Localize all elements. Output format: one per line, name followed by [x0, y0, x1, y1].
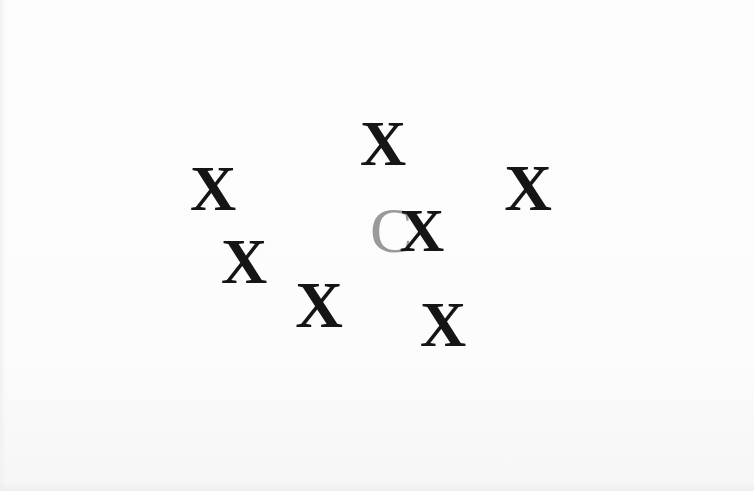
stimulus-canvas: C X X X X X X X — [0, 0, 754, 491]
distractor-letter-x: X — [185, 157, 241, 221]
bottom-edge-shading — [0, 483, 754, 491]
distractor-letter-x: X — [355, 112, 411, 176]
left-edge-shading — [0, 0, 6, 491]
distractor-letter-x: X — [415, 293, 471, 357]
distractor-letter-x: X — [396, 199, 448, 261]
distractor-letter-x: X — [499, 155, 557, 221]
distractor-letter-x: X — [289, 272, 349, 338]
distractor-letter-x: X — [216, 230, 272, 294]
